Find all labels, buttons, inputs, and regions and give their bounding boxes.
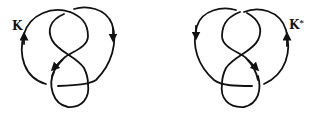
knot-k-bottom-loop [51, 72, 88, 107]
knot-kstar-eight-right [222, 13, 260, 84]
knot-diagrams [0, 0, 315, 118]
knot-label-k-star: K* [289, 19, 304, 31]
star-superscript: * [299, 17, 303, 27]
knot-kstar-outer-right-arc [244, 9, 288, 84]
knot-k [22, 7, 114, 107]
knot-label-k: K [12, 20, 22, 32]
knot-k-outer-left-arc [22, 10, 70, 84]
knot-figure: K K* [0, 0, 315, 118]
knot-kstar-bottom-loop [222, 76, 260, 107]
knot-k-star [195, 9, 288, 108]
knot-k-eight-left [50, 14, 88, 84]
arrow-icon [54, 60, 62, 68]
